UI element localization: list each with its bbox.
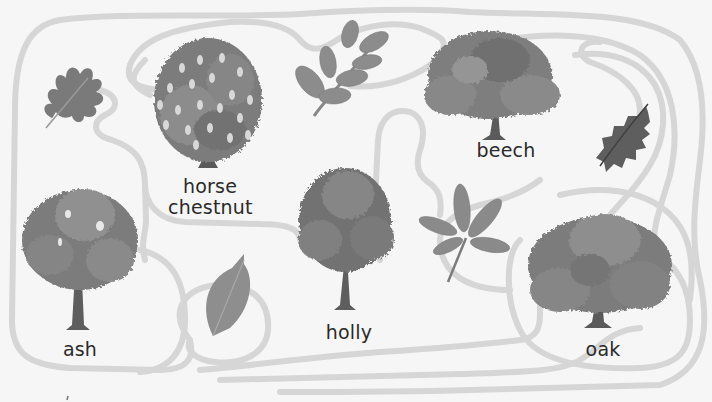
ash-tree[interactable] [22, 189, 138, 330]
maze-activity: horse chestnut beech ash holly oak [0, 0, 712, 402]
holly-label: holly [324, 322, 374, 343]
horse-chestnut-label-line1: horse [168, 176, 252, 197]
holly-leaf-icon[interactable] [596, 104, 650, 172]
horse-chestnut-tree[interactable] [154, 38, 262, 168]
beech-label: beech [476, 140, 536, 161]
beech-tree[interactable] [424, 31, 560, 140]
oak-leaf-icon[interactable] [44, 68, 103, 128]
oak-label: oak [583, 339, 623, 360]
ash-leaf-icon[interactable] [290, 18, 392, 116]
horse-chestnut-label-line2: chestnut [168, 197, 252, 218]
holly-tree[interactable] [298, 168, 394, 310]
beech-leaf-icon[interactable] [206, 254, 250, 336]
horse-chestnut-label: horse chestnut [168, 176, 252, 218]
oak-tree[interactable] [528, 214, 672, 328]
ash-label: ash [60, 339, 100, 360]
stray-mark [67, 396, 68, 400]
